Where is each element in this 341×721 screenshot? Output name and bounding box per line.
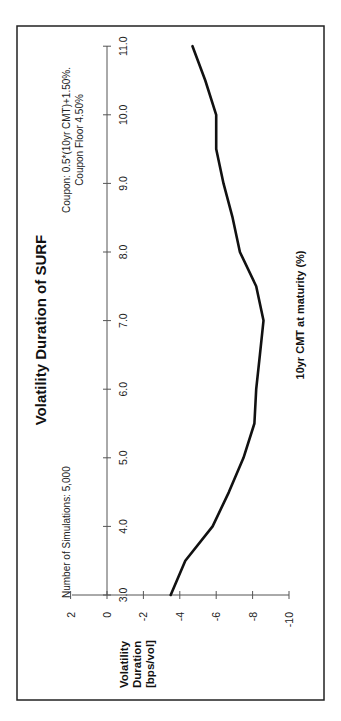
simulations-note: Number of Simulations: 5,000 <box>61 466 72 598</box>
y-tick-label: -6 <box>210 612 222 621</box>
x-tick-label: 10.0 <box>117 104 129 125</box>
x-tick-label: 5.0 <box>117 450 129 465</box>
y-tick-label: -4 <box>174 612 186 621</box>
y-axis-label-line-1: Volatility <box>118 640 130 688</box>
y-tick-label: 2 <box>65 612 77 618</box>
y-axis-label-line-3: [bps/vol] <box>144 640 156 688</box>
x-axis-label: 10yr CMT at maturity (%) <box>294 250 306 379</box>
volatility-duration-line <box>171 46 264 595</box>
y-axis-label: Volatility Duration [bps/vol] <box>118 640 156 688</box>
y-axis-ticks: 20-2-4-6-8-10 <box>65 591 295 627</box>
chart-title: Volatility Duration of SURF <box>32 235 49 426</box>
x-tick-label: 4.0 <box>117 519 129 534</box>
chart: 20-2-4-6-8-10 3.04.05.06.07.08.09.010.01… <box>0 0 341 721</box>
x-tick-label: 3.0 <box>117 588 129 603</box>
x-tick-label: 6.0 <box>117 382 129 397</box>
x-tick-label: 8.0 <box>117 245 129 260</box>
y-tick-label: 0 <box>101 612 113 618</box>
x-tick-label: 9.0 <box>117 176 129 191</box>
x-tick-label: 11.0 <box>117 36 129 56</box>
y-axis-label-line-2: Duration <box>131 641 143 688</box>
y-tick-label: -10 <box>283 612 295 627</box>
coupon-floor-note: Coupon Floor 4.50% <box>74 94 85 186</box>
coupon-note: Coupon: 0.5*(10yr CMT)+1.50%. <box>61 67 72 213</box>
x-tick-label: 7.0 <box>117 313 129 328</box>
y-tick-label: -8 <box>247 612 259 621</box>
y-tick-label: -2 <box>137 612 149 621</box>
